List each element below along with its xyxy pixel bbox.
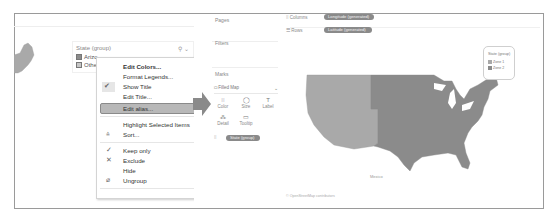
menu-item-edit-title[interactable]: Edit Title... — [97, 92, 194, 102]
menu-item-label: Highlight Selected Items — [123, 121, 190, 128]
map-copyright[interactable]: © OpenStreetMap contributors — [286, 194, 335, 198]
cards-column: Pages Filters Marks ⛋ Filled Map ⌄ ⁞⁞ Co… — [200, 13, 280, 209]
menu-bottom-border — [100, 188, 194, 189]
legend-item-arizona[interactable]: Arizo — [76, 54, 98, 60]
legend-context-menu: Edit Colors... Format Legends... ✔ Show … — [96, 57, 194, 199]
menu-item-label: Format Legends... — [123, 73, 173, 80]
before-panel: State (group) ⚲ ⌄ Arizo Other Edit Color… — [14, 13, 194, 209]
check-icon: ✓ — [106, 146, 112, 154]
label-icon: T — [259, 97, 277, 104]
chevron-down-icon: ⌄ — [274, 85, 278, 91]
size-button[interactable]: ◯ Size — [237, 97, 255, 111]
menu-item-label: Keep only — [123, 147, 151, 154]
state-group-pill[interactable]: State (group) — [226, 135, 260, 141]
menu-item-edit-alias[interactable]: Edit alias... — [100, 103, 194, 114]
sort-icon: ⩮ — [106, 130, 110, 138]
menu-item-label: Show Title — [123, 83, 152, 90]
detail-icon: ⁂ — [214, 114, 232, 121]
size-icon: ◯ — [237, 97, 255, 104]
color-button[interactable]: ⁞⁞ Color — [214, 97, 232, 111]
northeast-map-region — [14, 33, 54, 79]
checkmark-icon: ✔ — [104, 82, 110, 90]
menu-item-sort[interactable]: ⩮ Sort... — [97, 130, 194, 140]
mark-type-dropdown[interactable]: ⛋ Filled Map ⌄ — [214, 85, 278, 94]
color-swatch-icon — [488, 60, 492, 64]
label-button[interactable]: T Label — [259, 97, 277, 111]
legend-item-label: Zone 1 — [493, 60, 504, 64]
tooltip-icon: ▭ — [237, 114, 255, 121]
menu-separator — [100, 116, 194, 117]
button-label: Size — [242, 104, 251, 109]
columns-shelf-label: ⁞⁞ Columns — [286, 15, 308, 20]
menu-item-highlight-selected[interactable]: Highlight Selected Items — [97, 120, 194, 130]
menu-item-format-legends[interactable]: Format Legends... — [97, 72, 194, 82]
menu-separator — [100, 142, 194, 143]
menu-item-hide[interactable]: Hide — [97, 166, 194, 176]
menu-item-label: Hide — [123, 167, 136, 174]
color-field-icon: ⁞⁞ — [214, 135, 217, 140]
menu-item-ungroup[interactable]: ⌀ Ungroup — [97, 176, 194, 186]
ungroup-paperclip-icon: ⌀ — [106, 176, 110, 184]
legend-item-label: Zone 2 — [493, 66, 504, 70]
button-label: Label — [262, 104, 273, 109]
marks-card-title: Marks — [215, 71, 229, 77]
menu-item-show-title[interactable]: ✔ Show Title — [97, 82, 194, 92]
menu-item-exclude[interactable]: ✕ Exclude — [97, 156, 194, 166]
zone-2-region — [371, 75, 498, 171]
card-divider — [212, 67, 278, 68]
legend-menu-icon[interactable]: ⚲ ⌄ — [178, 45, 189, 52]
mexico-map-label: Mexico — [370, 174, 383, 179]
menu-item-label: Edit Colors... — [123, 63, 161, 70]
menu-item-label: Edit Title... — [123, 93, 152, 100]
legend-title: State (group) — [488, 52, 510, 56]
longitude-pill[interactable]: Longitude (generated) — [324, 14, 374, 20]
legend-title: State (group) — [76, 45, 111, 51]
button-label: Detail — [217, 121, 229, 126]
menu-item-label: Ungroup — [123, 177, 147, 184]
menu-item-label: Edit alias... — [123, 105, 153, 112]
pages-card-title: Pages — [215, 17, 229, 23]
menu-item-label: Exclude — [123, 157, 145, 164]
color-swatch-icon — [76, 54, 82, 60]
zone-legend[interactable]: State (group) Zone 1 Zone 2 — [483, 46, 515, 80]
exclude-x-icon: ✕ — [106, 156, 112, 164]
color-icon: ⁞⁞ — [214, 97, 232, 104]
zone-1-region — [306, 75, 378, 149]
legend-item-zone-1[interactable]: Zone 1 — [488, 60, 504, 64]
button-label: Tooltip — [239, 121, 252, 126]
filters-card-title: Filters — [215, 40, 229, 46]
menu-item-keep-only[interactable]: ✓ Keep only — [97, 146, 194, 156]
shelf-label: Columns — [290, 15, 308, 20]
legend-item-zone-2[interactable]: Zone 2 — [488, 66, 504, 70]
button-label: Color — [218, 104, 229, 109]
color-swatch-icon — [76, 62, 82, 68]
menu-item-label: Sort... — [123, 131, 140, 138]
detail-button[interactable]: ⁂ Detail — [214, 114, 232, 128]
mark-type-value: Filled Map — [218, 85, 239, 90]
tooltip-button[interactable]: ▭ Tooltip — [237, 114, 255, 128]
color-swatch-icon — [488, 66, 492, 70]
menu-item-edit-colors[interactable]: Edit Colors... — [97, 62, 194, 72]
after-panel: Pages Filters Marks ⛋ Filled Map ⌄ ⁞⁞ Co… — [200, 13, 544, 209]
toolbar-divider — [14, 26, 194, 27]
